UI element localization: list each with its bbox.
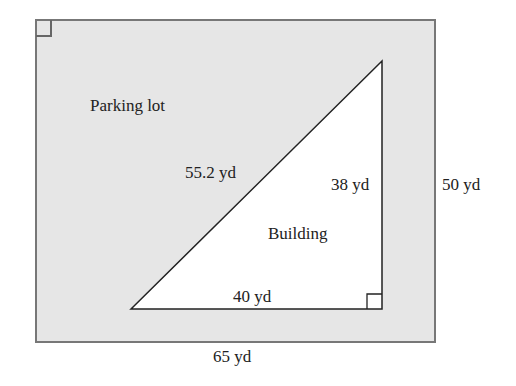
hypotenuse-length-label: 55.2 yd bbox=[185, 164, 236, 181]
vertical-leg-length-label: 38 yd bbox=[331, 176, 369, 193]
parking-lot-label: Parking lot bbox=[90, 97, 165, 114]
parking-lot-diagram: Parking lot 55.2 yd 38 yd 50 yd Building… bbox=[0, 0, 516, 386]
parking-lot-height-label: 50 yd bbox=[442, 176, 480, 193]
diagram-canvas bbox=[0, 0, 516, 386]
parking-lot-width-label: 65 yd bbox=[213, 348, 251, 365]
horizontal-leg-length-label: 40 yd bbox=[233, 288, 271, 305]
building-label: Building bbox=[268, 225, 328, 242]
